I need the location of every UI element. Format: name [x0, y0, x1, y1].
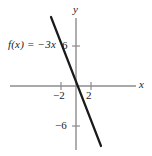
y-axis-label: y — [73, 4, 78, 15]
x-tick-label-neg2: −2 — [53, 90, 65, 101]
graph-figure: f(x) = −3x y x −2 2 6 −6 — [0, 0, 152, 156]
coordinate-plot — [0, 0, 152, 156]
y-tick-label-pos6: 6 — [62, 40, 68, 51]
y-tick-label-neg6: −6 — [55, 120, 67, 131]
function-equation-label: f(x) = −3x — [8, 39, 56, 50]
x-tick-label-pos2: 2 — [86, 90, 92, 101]
x-axis-label: x — [139, 79, 144, 90]
